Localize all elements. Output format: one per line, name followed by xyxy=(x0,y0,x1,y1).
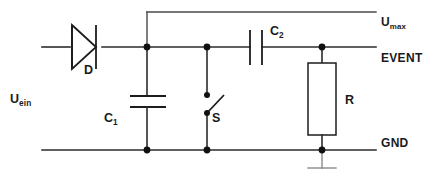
capacitor-C2 xyxy=(250,30,262,65)
label-capacitor1: C1 xyxy=(104,112,118,125)
switch-S[interactable] xyxy=(207,47,224,150)
label-input-voltage: Uein xyxy=(10,93,32,106)
capacitor-C1 xyxy=(130,47,166,150)
label-rail-event: EVENT xyxy=(381,52,423,64)
switch-contact-dot-lower xyxy=(204,110,210,116)
label-resistor: R xyxy=(345,94,354,107)
node-dot-switch-event xyxy=(204,44,211,51)
circuit-schematic-canvas xyxy=(0,0,431,180)
node-dot-c1-event xyxy=(144,44,151,51)
label-rail-umax: Umax xyxy=(381,16,406,28)
label-switch: S xyxy=(212,112,220,125)
resistor-R xyxy=(308,47,336,150)
node-dot-resistor-gnd xyxy=(319,147,326,154)
junction-dots xyxy=(144,44,326,154)
label-diode: D xyxy=(84,64,93,77)
resistor-body xyxy=(308,63,336,135)
node-dot-resistor-event xyxy=(319,44,326,51)
node-dot-c1-gnd xyxy=(144,147,151,154)
node-dot-switch-gnd xyxy=(204,147,211,154)
switch-contact-dot-upper xyxy=(204,92,210,98)
label-capacitor2: C2 xyxy=(270,25,284,38)
circuit-diagram: Uein D C1 S C2 R Umax EVENT GND xyxy=(0,0,431,180)
label-rail-gnd: GND xyxy=(381,137,409,149)
